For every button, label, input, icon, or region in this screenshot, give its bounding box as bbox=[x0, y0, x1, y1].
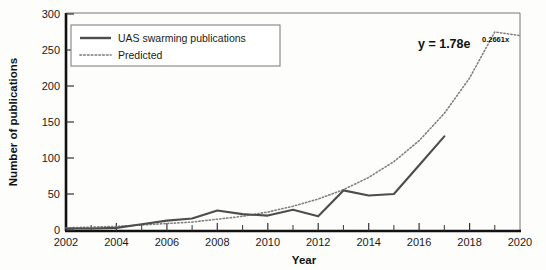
chart-legend: UAS swarming publications Predicted bbox=[71, 25, 280, 66]
x-tick-label-2012: 2012 bbox=[306, 236, 330, 248]
x-tick-label-2004: 2004 bbox=[104, 236, 128, 248]
publications-line-chart: 0 50 100 150 200 250 300 bbox=[0, 0, 546, 270]
legend-label-predicted: Predicted bbox=[118, 49, 163, 61]
x-tick-label-2008: 2008 bbox=[205, 236, 229, 248]
x-tick-label-2014: 2014 bbox=[356, 236, 380, 248]
x-tick-label-2010: 2010 bbox=[256, 236, 280, 248]
y-axis-title: Number of publications bbox=[7, 58, 19, 186]
x-tick-label-2020: 2020 bbox=[508, 236, 532, 248]
x-tick-label-2002: 2002 bbox=[54, 236, 78, 248]
x-tick-label-2006: 2006 bbox=[155, 236, 179, 248]
trendline-equation-exponent: 0.2661x bbox=[482, 35, 510, 44]
y-tick-label-150: 150 bbox=[42, 116, 60, 128]
x-tick-label-2018: 2018 bbox=[457, 236, 481, 248]
legend-label-observed: UAS swarming publications bbox=[118, 32, 246, 44]
y-tick-label-0: 0 bbox=[54, 224, 60, 236]
x-tick-label-2016: 2016 bbox=[407, 236, 431, 248]
chart-figure: 0 50 100 150 200 250 300 bbox=[0, 0, 546, 270]
y-tick-label-50: 50 bbox=[48, 188, 60, 200]
x-axis-title: Year bbox=[292, 254, 317, 266]
y-tick-label-300: 300 bbox=[42, 8, 60, 20]
y-tick-label-200: 200 bbox=[42, 80, 60, 92]
trendline-equation-base: y = 1.78e bbox=[418, 37, 471, 51]
y-tick-label-250: 250 bbox=[42, 44, 60, 56]
y-tick-label-100: 100 bbox=[42, 152, 60, 164]
